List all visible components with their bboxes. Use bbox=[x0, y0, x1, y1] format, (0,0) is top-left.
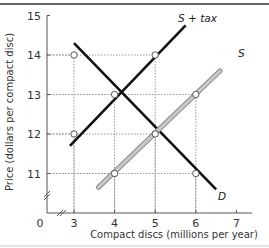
y-tick-label: 13 bbox=[27, 89, 41, 102]
chart: 1112131415345670Compact discs (millions … bbox=[0, 0, 269, 248]
demand-curve bbox=[74, 43, 216, 189]
point-marker bbox=[71, 131, 77, 137]
y-tick-label: 11 bbox=[27, 168, 41, 181]
point-marker bbox=[152, 52, 158, 58]
labels: 1112131415345670Compact discs (millions … bbox=[4, 10, 258, 241]
label-s-plus-tax: S + tax bbox=[178, 12, 218, 24]
point-markers bbox=[71, 52, 199, 177]
label-s: S bbox=[238, 47, 245, 59]
y-tick-label: 12 bbox=[27, 128, 41, 141]
point-marker bbox=[193, 91, 199, 97]
origin-label: 0 bbox=[37, 217, 44, 230]
point-marker bbox=[71, 52, 77, 58]
x-tick-label: 3 bbox=[71, 217, 78, 230]
guide-lines bbox=[47, 55, 196, 213]
y-tick-label: 15 bbox=[27, 10, 41, 23]
label-d: D bbox=[218, 190, 226, 202]
point-marker bbox=[152, 131, 158, 137]
y-tick-label: 14 bbox=[27, 49, 41, 62]
point-marker bbox=[193, 170, 199, 176]
y-axis-title: Price (dollars per compact disc) bbox=[4, 33, 15, 191]
point-marker bbox=[111, 170, 117, 176]
point-marker bbox=[111, 91, 117, 97]
series-lines bbox=[70, 25, 220, 189]
supply-plus-tax-curve bbox=[70, 25, 186, 145]
x-axis-title: Compact discs (millions per year) bbox=[90, 229, 258, 240]
